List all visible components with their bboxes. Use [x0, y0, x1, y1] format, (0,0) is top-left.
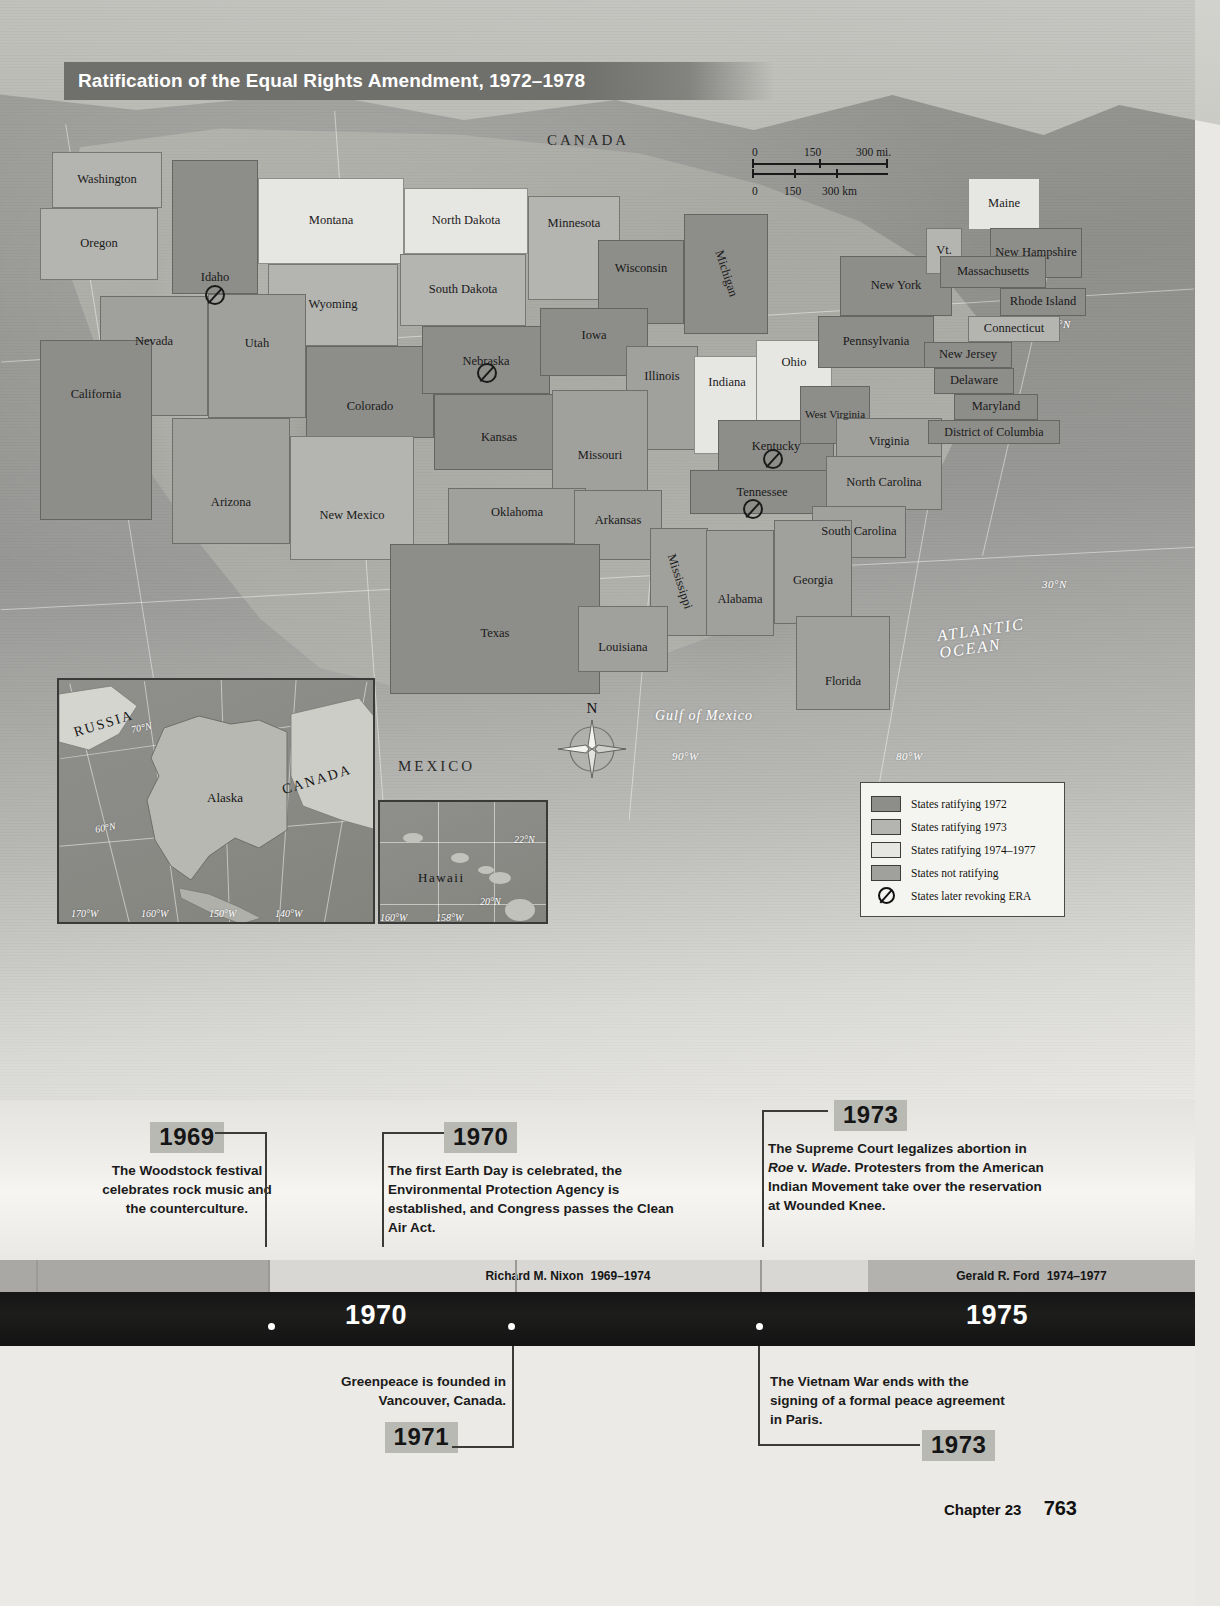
event-connector-1973-top-vertical — [762, 1110, 764, 1247]
state-oklahoma[interactable]: Oklahoma — [448, 488, 586, 544]
scale-km-bar — [752, 173, 892, 185]
legend-label: States ratifying 1973 — [911, 821, 1007, 833]
state-utah[interactable]: Utah — [208, 294, 306, 418]
state-connecticut[interactable]: Connecticut — [968, 316, 1060, 342]
inset-map-alaska[interactable]: RUSSIA Alaska CANADA 70°N 60°N 170°W 160… — [57, 678, 375, 924]
state-new-mexico[interactable]: New Mexico — [290, 436, 414, 560]
legend-item[interactable]: States later revoking ERA — [871, 884, 1054, 907]
timeline-event-1973-top[interactable]: 1973 The Supreme Court legalizes abortio… — [768, 1100, 1046, 1216]
state-michigan[interactable]: Michigan — [684, 214, 768, 334]
event-year-badge: 1971 — [385, 1422, 458, 1453]
state-new-jersey[interactable]: New Jersey — [924, 342, 1012, 368]
ocean-label-gulf: Gulf of Mexico — [655, 708, 753, 724]
state-south-dakota[interactable]: South Dakota — [400, 254, 526, 326]
timeline-tick — [268, 1260, 270, 1292]
state-missouri[interactable]: Missouri — [552, 390, 648, 494]
timeline-marker-dot — [756, 1323, 763, 1330]
timeline-event-1969[interactable]: 1969 The Woodstock festival celebrates r… — [102, 1122, 272, 1218]
legend-item[interactable]: States not ratifying — [871, 861, 1054, 884]
state-washington[interactable]: Washington — [52, 152, 162, 208]
state-idaho[interactable]: Idaho — [172, 160, 258, 294]
event-year-badge: 1973 — [834, 1100, 907, 1131]
map-scale-bar: 0 150 300 mi. 0 150 300 km — [752, 146, 898, 199]
timeline-era-bar: 1970 1975 — [0, 1292, 1195, 1346]
state-california[interactable]: California — [40, 340, 152, 520]
state-maine[interactable]: Maine — [968, 178, 1040, 230]
state-delaware[interactable]: Delaware — [934, 368, 1014, 394]
event-connector-1973-bottom-vertical — [758, 1346, 760, 1446]
timeline-figure: 1969 The Woodstock festival celebrates r… — [0, 1100, 1195, 1606]
event-text: Greenpeace is founded in Vancouver, Cana… — [300, 1372, 506, 1410]
state-district-of-columbia[interactable]: District of Columbia — [928, 420, 1060, 444]
event-connector-1973-bottom — [758, 1444, 920, 1446]
state-kansas[interactable]: Kansas — [434, 394, 564, 470]
state-louisiana[interactable]: Louisiana — [578, 606, 668, 672]
legend-label: States ratifying 1974–1977 — [911, 844, 1036, 856]
state-nebraska[interactable]: Nebraska — [422, 326, 550, 394]
legend-item[interactable]: States ratifying 1974–1977 — [871, 838, 1054, 861]
timeline-event-1970[interactable]: 1970 The first Earth Day is celebrated, … — [388, 1122, 684, 1238]
inset-graticule-158w: 158°W — [436, 912, 463, 923]
chapter-label: Chapter 23 — [944, 1501, 1022, 1518]
graticule-label-80w: 80°W — [896, 750, 923, 762]
timeline-tick — [36, 1260, 38, 1292]
event-connector-1970 — [382, 1132, 444, 1134]
timeline-event-1973-bottom[interactable]: The Vietnam War ends with the signing of… — [770, 1372, 1020, 1429]
state-arizona[interactable]: Arizona — [172, 418, 290, 544]
event-text: The Woodstock festival celebrates rock m… — [102, 1161, 272, 1218]
revoking-era-icon — [743, 499, 763, 519]
inset-map-hawaii[interactable]: Hawaii 22°N 20°N 160°W 158°W — [378, 800, 548, 924]
region-label-canada: CANADA — [547, 132, 629, 149]
region-label-mexico: MEXICO — [398, 758, 475, 775]
timeline-event-1971[interactable]: Greenpeace is founded in Vancouver, Cana… — [300, 1372, 506, 1453]
state-florida[interactable]: Florida — [796, 616, 890, 710]
legend-item[interactable]: States ratifying 1973 — [871, 815, 1054, 838]
event-connector-1973-top — [762, 1110, 828, 1112]
legend-swatch — [871, 842, 901, 858]
presidents-band: Richard M. Nixon 1969–1974 Gerald R. For… — [0, 1260, 1195, 1292]
state-maryland[interactable]: Maryland — [954, 394, 1038, 420]
president-name: Richard M. Nixon — [485, 1269, 583, 1283]
map-title: Ratification of the Equal Rights Amendme… — [64, 70, 585, 92]
legend-swatch — [871, 865, 901, 881]
inset-graticule-160w: 160°W — [141, 908, 168, 919]
event-year-badge: 1969 — [150, 1122, 223, 1153]
compass-rose: N — [556, 700, 628, 780]
president-nixon[interactable]: Richard M. Nixon 1969–1974 — [268, 1260, 868, 1292]
state-alabama[interactable]: Alabama — [706, 530, 774, 636]
timeline-marker-dot — [508, 1323, 515, 1330]
state-montana[interactable]: Montana — [258, 178, 404, 264]
state-massachusetts[interactable]: Massachusetts — [940, 256, 1046, 288]
scale-km-labels: 0 150 300 km — [752, 185, 898, 199]
event-text: The Vietnam War ends with the signing of… — [770, 1372, 1020, 1429]
compass-north-label: N — [587, 700, 598, 717]
page-number: 763 — [1044, 1497, 1077, 1519]
timeline-marker-dot — [268, 1323, 275, 1330]
state-north-carolina[interactable]: North Carolina — [826, 456, 942, 510]
event-connector-1969-vertical — [265, 1132, 267, 1247]
state-pennsylvania[interactable]: Pennsylvania — [818, 316, 934, 368]
timeline-tick — [515, 1260, 517, 1292]
legend-item[interactable]: States ratifying 1972 — [871, 792, 1054, 815]
event-connector-1970-vertical — [382, 1132, 384, 1247]
ocean-label-atlantic: ATLANTICOCEAN — [936, 616, 1028, 662]
inset-graticule-170w: 170°W — [71, 908, 98, 919]
state-texas[interactable]: Texas — [390, 544, 600, 694]
graticule-label-90w: 90°W — [672, 750, 699, 762]
president-ford[interactable]: Gerald R. Ford 1974–1977 — [868, 1260, 1195, 1292]
graticule-label-30n: 30°N — [1042, 578, 1067, 590]
event-text: The Supreme Court legalizes abortion in … — [768, 1139, 1046, 1216]
state-oregon[interactable]: Oregon — [40, 208, 158, 280]
inset-label-hawaii: Hawaii — [418, 870, 465, 886]
state-rhode-island[interactable]: Rhode Island — [1000, 288, 1086, 316]
compass-star-icon — [556, 718, 628, 780]
revoking-era-icon — [477, 363, 497, 383]
state-north-dakota[interactable]: North Dakota — [404, 188, 528, 254]
no-entry-icon — [871, 887, 901, 905]
pre-term-segment — [0, 1260, 268, 1292]
era-year-1970: 1970 — [345, 1300, 407, 1331]
inset-graticule-140w: 140°W — [275, 908, 302, 919]
event-connector-1971 — [452, 1446, 514, 1448]
state-colorado[interactable]: Colorado — [306, 346, 434, 438]
event-year-badge: 1970 — [444, 1122, 517, 1153]
